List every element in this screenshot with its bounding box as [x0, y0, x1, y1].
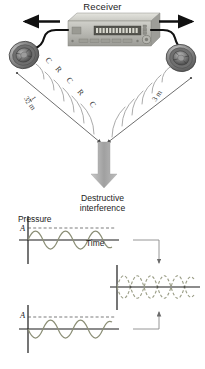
speaker-right: [163, 41, 199, 75]
connector-top: [133, 240, 159, 263]
connector-bottom: [133, 312, 159, 329]
destructive-interference-line2: interference: [0, 203, 205, 213]
physics-figure: [0, 0, 205, 369]
receiver-bottom-buttons[interactable]: [79, 39, 132, 42]
destructive-arrow: [91, 142, 117, 188]
amplitude-label-bottom: A: [20, 311, 25, 320]
pressure-axis-label: Pressure: [18, 214, 52, 224]
receiver-buttons[interactable]: [143, 25, 147, 34]
chart-combined: [110, 265, 200, 310]
receiver-unit: [68, 13, 160, 46]
time-axis-label: Time: [86, 238, 104, 248]
speaker-left: [6, 38, 43, 73]
destructive-interference-line1: Destructive: [0, 193, 205, 203]
wavefronts-right: [112, 67, 170, 137]
figure-root: Receiver Destructive interference Pressu…: [0, 0, 205, 369]
wavefronts-left: [36, 64, 94, 134]
distance-line-right: [107, 78, 191, 143]
chart-speaker-b: [19, 305, 119, 353]
amplitude-label-top: A: [20, 224, 25, 233]
receiver-label: Receiver: [0, 1, 205, 12]
cable-left: [35, 30, 68, 48]
